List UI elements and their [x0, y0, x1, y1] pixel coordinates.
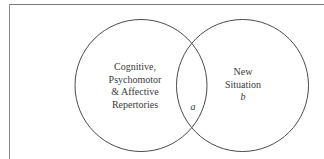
left-set-line-3: & Affective	[95, 86, 175, 99]
right-set-line-2: Situation	[212, 79, 274, 92]
left-set-label: Cognitive, Psychomotor & Affective Reper…	[95, 61, 175, 111]
left-set-line-1: Cognitive,	[95, 61, 175, 74]
left-set-line-2: Psychomotor	[95, 74, 175, 87]
intersection-label: a	[188, 101, 198, 112]
right-set-line-1: New	[212, 66, 274, 79]
right-set-label: New Situation b	[212, 66, 274, 104]
left-set-line-4: Repertories	[95, 99, 175, 112]
right-set-letter: b	[212, 91, 274, 104]
